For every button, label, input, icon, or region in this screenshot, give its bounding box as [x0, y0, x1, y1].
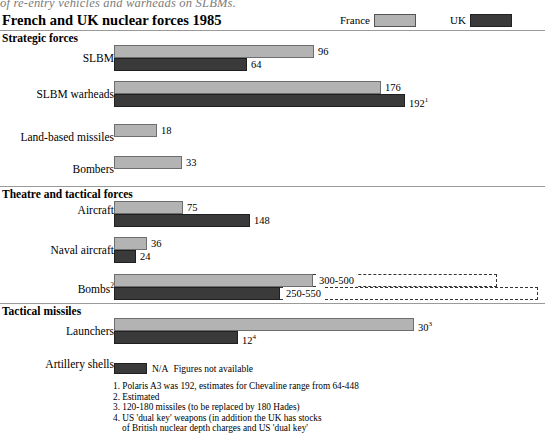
row-label-land-based-missiles: Land-based missiles: [20, 131, 114, 143]
bar-value-uk-bombs: 250-550: [284, 287, 323, 300]
page-title: French and UK nuclear forces 1985: [2, 12, 222, 29]
legend-item-france: France: [340, 13, 416, 27]
bar-value-number: 12: [242, 335, 253, 346]
section-header-theatre: Theatre and tactical forces: [2, 188, 133, 200]
section-header-tactical: Tactical missiles: [2, 305, 81, 317]
bar-value-france-land-based-missiles: 18: [161, 124, 172, 137]
footnote-marker: 4: [253, 333, 257, 341]
na-key-text: Figures not available: [173, 364, 253, 374]
section-header-strategic: Strategic forces: [2, 32, 78, 44]
bar-uk-slbm-warheads: [114, 94, 405, 107]
bar-value-france-bombers: 33: [186, 156, 197, 169]
footnote-marker: 1: [425, 96, 429, 104]
row-label-slbm-warheads: SLBM warheads: [36, 88, 114, 100]
row-label-bombs: Bombs2: [78, 281, 114, 295]
row-label-launchers: Launchers: [66, 325, 114, 337]
na-key: N/A Figures not available: [114, 363, 253, 374]
bar-france-slbm: [114, 45, 314, 58]
bar-uk-launchers: [114, 331, 238, 344]
bar-uk-aircraft: [114, 214, 250, 227]
bar-value-number: 192: [409, 98, 425, 109]
bar-uk-bombs: [114, 287, 280, 300]
row-label-slbm: SLBM: [83, 52, 114, 64]
bar-value-france-naval-aircraft: 36: [151, 237, 162, 250]
row-label-naval-aircraft: Naval aircraft: [50, 244, 114, 256]
bar-france-aircraft: [114, 201, 183, 214]
bar-value-uk-aircraft: 148: [254, 214, 270, 227]
chart-header: French and UK nuclear forces 1985 France…: [0, 12, 545, 30]
bar-uk-naval-aircraft: [114, 250, 136, 263]
footnotes: 1. Polaris A3 was 192, estimates for Che…: [113, 381, 359, 434]
bar-france-bombs: [114, 274, 313, 287]
section-rule-tactical: [0, 303, 545, 304]
footnote-2: 2. Estimated: [113, 392, 359, 403]
row-label-bombers: Bombers: [72, 163, 114, 175]
bar-france-land-based-missiles: [114, 124, 157, 137]
footnote-4: 4. US 'dual key' weapons (in addition th…: [113, 413, 359, 424]
legend-label-france: France: [340, 14, 370, 26]
bar-value-uk-slbm: 64: [251, 58, 262, 71]
section-rule-theatre: [0, 186, 545, 187]
bar-value-france-slbm-warheads: 176: [385, 81, 401, 94]
bar-uk-slbm: [114, 58, 247, 71]
legend: France UK: [340, 13, 545, 29]
row-label-aircraft: Aircraft: [78, 204, 114, 216]
bar-value-france-aircraft: 75: [187, 201, 198, 214]
footnote-marker: 3: [429, 320, 433, 328]
footnote-1: 1. Polaris A3 was 192, estimates for Che…: [113, 381, 359, 392]
legend-swatch-uk: [470, 14, 512, 27]
bar-france-naval-aircraft: [114, 237, 147, 250]
section-rule-strategic: [0, 30, 545, 31]
legend-swatch-france: [374, 14, 416, 27]
footnote-3: 3. 120-180 missiles (to be replaced by 1…: [113, 402, 359, 413]
bar-value-number: 30: [418, 322, 429, 333]
bar-value-france-bombs: 300-500: [317, 274, 356, 287]
bar-value-uk-launchers: 124: [242, 331, 256, 347]
bar-value-france-launchers: 303: [418, 318, 432, 334]
bar-france-slbm-warheads: [114, 81, 381, 94]
row-label-text: Bombs: [78, 283, 111, 295]
row-label-artillery-shells: Artillery shells: [45, 358, 114, 370]
legend-label-uk: UK: [450, 14, 466, 26]
legend-item-uk: UK: [450, 13, 512, 27]
bar-france-bombers: [114, 156, 182, 169]
bar-value-uk-slbm-warheads: 1921: [409, 94, 428, 110]
na-key-label: N/A: [152, 364, 168, 374]
running-text-fragment: of re-entry vehicles and warheads on SLB…: [0, 0, 545, 10]
bar-value-uk-naval-aircraft: 24: [140, 250, 151, 263]
footnote-4-continued: of British nuclear depth charges and US …: [113, 423, 359, 434]
na-swatch: [114, 363, 147, 374]
bar-value-france-slbm: 96: [318, 45, 329, 58]
bar-france-launchers: [114, 318, 414, 331]
